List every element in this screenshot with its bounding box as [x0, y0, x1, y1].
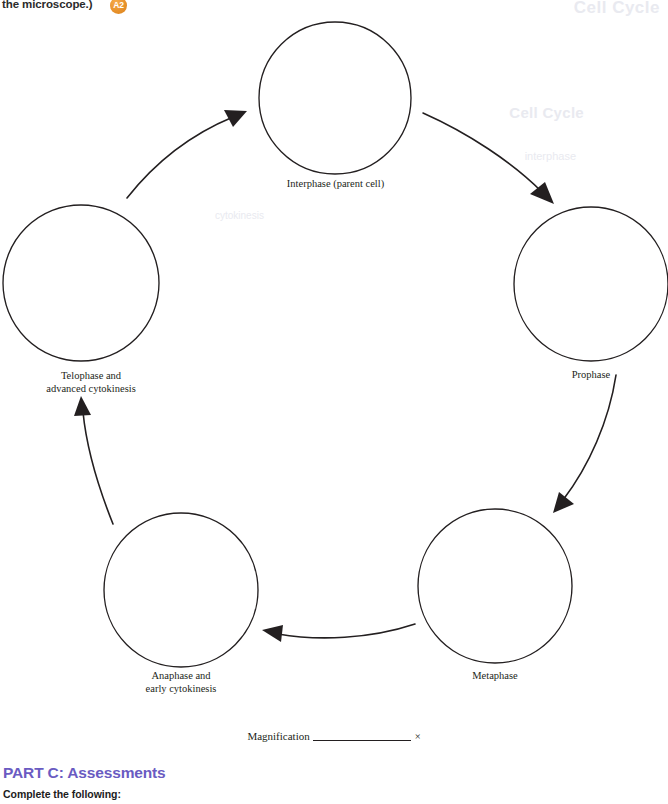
phase-label-interphase: Interphase (parent cell)	[259, 178, 412, 191]
cell-drawing-circle-interphase[interactable]	[259, 22, 411, 174]
cell-drawing-circle-telophase[interactable]	[3, 205, 159, 361]
arrow-telophase-to-interphase	[127, 110, 247, 198]
arrow-anaphase-to-telophase	[74, 396, 113, 524]
magnification-input-blank[interactable]	[313, 729, 411, 741]
magnification-label: Magnification	[247, 730, 309, 742]
magnification-field: Magnification×	[0, 729, 668, 742]
phase-label-anaphase-line-1: Anaphase and	[104, 670, 258, 683]
phase-label-prophase: Prophase	[514, 369, 668, 382]
part-c-subheading: Complete the following:	[3, 788, 403, 800]
phase-label-anaphase-line-2: early cytokinesis	[104, 683, 258, 696]
arrow-interphase-to-prophase	[423, 113, 554, 204]
cell-drawing-circle-anaphase[interactable]	[104, 513, 258, 667]
part-c-section: PART C: Assessments Complete the followi…	[3, 764, 403, 800]
arrow-prophase-to-metaphase	[553, 375, 616, 513]
cell-drawing-circle-prophase[interactable]	[514, 207, 668, 361]
part-c-heading: PART C: Assessments	[3, 764, 403, 782]
arrow-metaphase-to-anaphase	[262, 624, 415, 642]
cell-drawing-circle-metaphase[interactable]	[418, 509, 572, 663]
phase-label-metaphase: Metaphase	[418, 670, 572, 683]
phase-label-anaphase: Anaphase and early cytokinesis	[104, 670, 258, 695]
phase-label-telophase-line-2: advanced cytokinesis	[5, 383, 177, 396]
phase-label-telophase-line-1: Telophase and	[5, 370, 177, 383]
cell-cycle-diagram: Interphase (parent cell) Prophase Metaph…	[0, 0, 668, 760]
magnification-unit: ×	[415, 731, 421, 742]
phase-label-telophase: Telophase and advanced cytokinesis	[5, 370, 177, 395]
